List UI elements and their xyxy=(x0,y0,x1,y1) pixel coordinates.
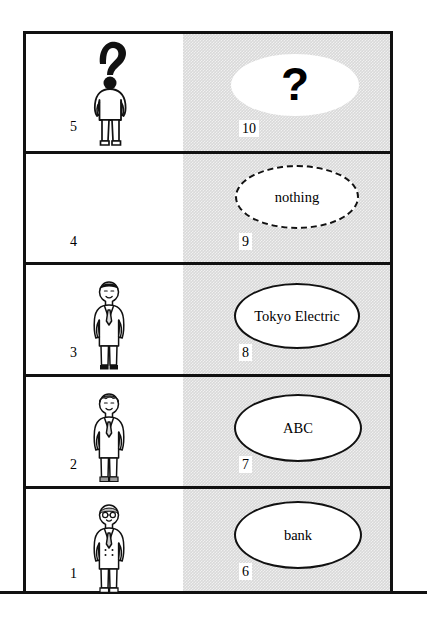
left-number-badge-4f: 4 xyxy=(67,233,80,250)
tenant-bubble-3f: Tokyo Electric xyxy=(234,283,360,349)
floor-row-1f: Mr. Hoffman 1F 1 xyxy=(26,486,390,591)
floor-divider-4f xyxy=(26,151,390,154)
person-figure-hoffman-1f xyxy=(83,503,139,595)
tenant-bubble-label-4f: nothing xyxy=(275,189,319,206)
tenant-bubble-1f: bank xyxy=(234,501,362,569)
tenant-bubble-4f: nothing xyxy=(235,165,359,229)
right-number-badge-5f: 10 xyxy=(239,120,259,137)
tenant-bubble-label-2f: ABC xyxy=(283,420,313,437)
floor-row-3f: Mr. Tanaka 3F 3 xyxy=(26,262,390,374)
person-figure-tanaka-3f xyxy=(83,280,139,372)
floor-row-4f: 4F no one 4 nothing 9 xyxy=(26,151,390,262)
ground-line xyxy=(0,591,427,594)
floor-divider-3f xyxy=(26,262,390,265)
diagram-canvas: 5F 5 xyxy=(0,0,427,630)
tenant-bubble-5f: ? xyxy=(231,54,359,116)
floor-left-area-4f xyxy=(26,151,183,262)
tenant-bubble-2f: ABC xyxy=(234,394,362,462)
floor-divider-2f xyxy=(26,374,390,377)
person-figure-smith-2f xyxy=(83,392,139,484)
person-figure-unknown-5f xyxy=(82,38,140,148)
left-number-badge-3f: 3 xyxy=(67,344,80,361)
right-number-badge-1f: 6 xyxy=(239,563,252,580)
left-number-badge-1f: 1 xyxy=(67,565,80,582)
right-number-badge-3f: 8 xyxy=(239,344,252,361)
right-number-badge-2f: 7 xyxy=(239,456,252,473)
left-number-badge-2f: 2 xyxy=(67,456,80,473)
tenant-bubble-label-1f: bank xyxy=(284,527,312,544)
question-mark-icon: ? xyxy=(281,61,309,107)
floor-row-2f: Mr. Smith 2F 2 xyxy=(26,374,390,486)
floor-divider-1f xyxy=(26,486,390,489)
left-number-badge-5f: 5 xyxy=(67,118,80,135)
floor-row-5f: 5F 5 xyxy=(26,34,390,151)
building-frame: 5F 5 xyxy=(23,31,393,594)
right-number-badge-4f: 9 xyxy=(239,233,252,250)
tenant-bubble-label-3f: Tokyo Electric xyxy=(254,308,340,325)
